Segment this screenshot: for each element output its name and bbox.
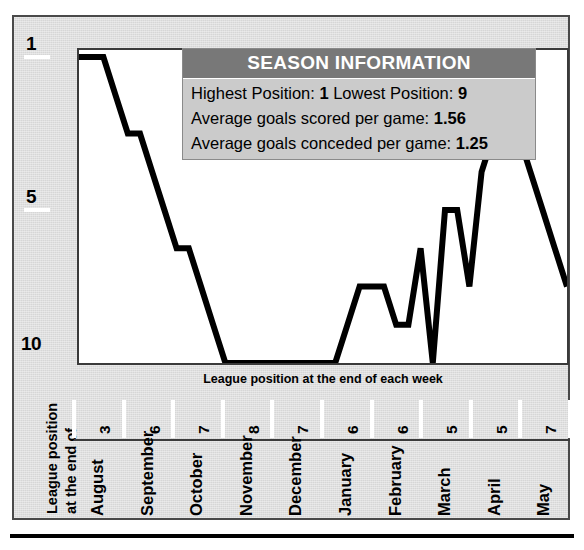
season-information-box: SEASON INFORMATION Highest Position: 1 L… xyxy=(182,48,536,160)
month-cell-october: 7October xyxy=(173,398,222,518)
y-tick-mark-1 xyxy=(24,55,50,59)
month-label-september: September xyxy=(138,431,157,516)
goals-conceded-label: Average goals conceded per game: xyxy=(191,134,456,152)
month-value-november: 8 xyxy=(245,425,263,434)
month-tick-january xyxy=(320,400,324,438)
month-cell-january: 6January xyxy=(322,398,371,518)
goals-conceded-value: 1.25 xyxy=(456,134,488,152)
highest-position-label: Highest Position: xyxy=(191,84,319,102)
x-axis-caption: League position at the end of each week xyxy=(77,372,569,386)
month-cell-december: 7December xyxy=(272,398,321,518)
month-label-april: April xyxy=(485,478,504,516)
month-label-december: December xyxy=(286,436,305,516)
month-label-may: May xyxy=(534,484,553,516)
highest-position-value: 1 xyxy=(319,84,328,102)
chart-panel: 1 5 10 SEASON INFORMATION Highest Positi… xyxy=(12,15,570,520)
month-value-april: 5 xyxy=(493,425,511,434)
y-axis-title: League position at the end of xyxy=(26,404,74,516)
month-label-march: March xyxy=(435,467,454,516)
month-cell-may: 7May xyxy=(520,398,569,518)
month-tick-april xyxy=(469,400,473,438)
month-cell-march: 5March xyxy=(421,398,470,518)
month-cell-february: 6February xyxy=(372,398,421,518)
month-label-november: November xyxy=(237,435,256,516)
month-tick-may xyxy=(518,400,522,438)
month-cell-august: 3August xyxy=(74,398,123,518)
month-value-may: 7 xyxy=(542,425,560,434)
lowest-position-label: Lowest Position: xyxy=(329,84,458,102)
month-label-october: October xyxy=(187,453,206,516)
y-axis-title-line1: League position xyxy=(44,403,60,514)
bottom-rule xyxy=(10,534,574,538)
goals-scored-value: 1.56 xyxy=(434,109,466,127)
month-value-january: 6 xyxy=(344,425,362,434)
month-value-august: 3 xyxy=(96,425,114,434)
month-tick-february xyxy=(370,400,374,438)
lowest-position-value: 9 xyxy=(458,84,467,102)
month-axis-band: League position at the end of 3August6Se… xyxy=(16,398,570,518)
info-row-goals-conceded: Average goals conceded per game: 1.25 xyxy=(183,131,535,156)
month-label-february: February xyxy=(386,445,405,516)
screenshot-root: 1 5 10 SEASON INFORMATION Highest Positi… xyxy=(0,0,584,550)
y-tick-label-1: 1 xyxy=(26,34,36,53)
month-value-february: 6 xyxy=(394,425,412,434)
month-tick-march xyxy=(419,400,423,438)
month-value-march: 5 xyxy=(443,425,461,434)
goals-scored-label: Average goals scored per game: xyxy=(191,109,434,127)
month-tick-november xyxy=(221,400,225,438)
month-cell-september: 6September xyxy=(124,398,173,518)
info-row-positions: Highest Position: 1 Lowest Position: 9 xyxy=(183,81,535,106)
month-label-august: August xyxy=(88,459,107,516)
y-tick-mark-5 xyxy=(24,208,50,212)
y-tick-label-10: 10 xyxy=(21,334,41,353)
month-tick-august xyxy=(72,400,76,438)
month-label-january: January xyxy=(336,453,355,516)
month-tick-december xyxy=(270,400,274,438)
month-cell-april: 5April xyxy=(471,398,520,518)
season-information-body: Highest Position: 1 Lowest Position: 9 A… xyxy=(183,79,535,159)
y-tick-label-5: 5 xyxy=(26,187,36,206)
month-tick-september xyxy=(122,400,126,438)
month-tick-end xyxy=(568,400,572,438)
month-value-december: 7 xyxy=(294,425,312,434)
month-cell-november: 8November xyxy=(223,398,272,518)
season-information-title: SEASON INFORMATION xyxy=(183,49,535,79)
info-row-goals-scored: Average goals scored per game: 1.56 xyxy=(183,106,535,131)
month-tick-october xyxy=(171,400,175,438)
month-value-october: 7 xyxy=(195,425,213,434)
